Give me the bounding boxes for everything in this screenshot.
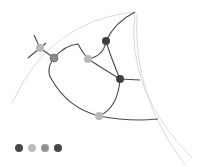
edges [28, 12, 158, 120]
background-arcs [12, 12, 192, 165]
edge-f [54, 44, 88, 59]
node-left [50, 54, 58, 62]
legend-dot-4 [54, 144, 62, 152]
legend-dot-2 [28, 144, 36, 152]
node-far-left [36, 44, 44, 52]
node-mid [84, 55, 92, 63]
node-bottom [95, 112, 103, 120]
edge-c [88, 59, 120, 79]
node-right [116, 75, 124, 83]
edge-h [99, 116, 158, 120]
network-diagram [0, 0, 201, 167]
edge-g [49, 58, 99, 116]
edge-e [99, 79, 120, 116]
legend [15, 144, 62, 152]
node-top [102, 37, 110, 45]
legend-dot-1 [15, 144, 23, 152]
right-arc-1 [134, 12, 192, 158]
edge-a [106, 41, 120, 79]
legend-dot-3 [41, 144, 49, 152]
